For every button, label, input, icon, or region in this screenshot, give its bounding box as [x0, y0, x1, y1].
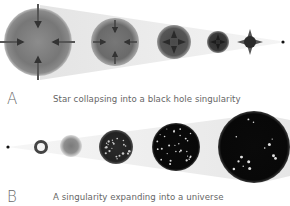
galaxy-spot: [111, 148, 112, 149]
galaxy-spot: [160, 134, 161, 135]
galaxy-spot: [106, 143, 107, 144]
panel-a-stage-medium-star: [91, 18, 139, 66]
panel-b-stage-early-universe: [99, 130, 133, 164]
galaxy-spot: [105, 152, 107, 154]
galaxy-spot: [179, 135, 180, 136]
galaxy-spot: [173, 130, 174, 131]
panel-a-caption: Star collapsing into a black hole singul…: [53, 94, 241, 104]
panel-b-singularity: [6, 145, 9, 148]
galaxy-spot: [188, 158, 190, 160]
galaxy-spot: [164, 136, 166, 138]
panel-b-caption: A singularity expanding into a universe: [53, 192, 224, 202]
galaxy-spot: [108, 150, 110, 152]
panel-b-stage-large-universe: [218, 111, 290, 183]
galaxy-spot: [187, 140, 189, 142]
galaxy-spot: [247, 160, 250, 163]
galaxy-spot: [175, 151, 177, 153]
galaxy-spot: [187, 160, 188, 161]
galaxy-spot: [123, 140, 125, 142]
galaxy-spot: [116, 138, 118, 140]
galaxy-spot: [105, 146, 107, 148]
galaxy-spot: [107, 144, 108, 145]
galaxy-spot: [248, 167, 251, 170]
galaxy-spot: [116, 158, 117, 159]
panel-a-stage-compact-star: [207, 31, 229, 53]
galaxy-spot: [167, 153, 168, 154]
panel-b-stage-universe-galaxies: [152, 123, 200, 171]
galaxy-spot: [264, 147, 266, 149]
panel-a-stage-collapse-point: [237, 29, 263, 55]
galaxy-spot: [268, 143, 271, 146]
galaxy-spot: [190, 133, 192, 135]
galaxy-spot: [236, 136, 238, 138]
galaxy-spot: [156, 141, 158, 143]
galaxy-spot: [233, 168, 236, 171]
galaxy-spot: [170, 160, 172, 162]
galaxy-spot: [272, 154, 275, 157]
galaxy-spot: [186, 151, 187, 152]
galaxy-spot: [247, 118, 249, 120]
galaxy-spot: [108, 140, 110, 142]
galaxy-spot: [112, 142, 114, 144]
galaxy-spot: [123, 144, 125, 146]
panel-a-singularity: [281, 40, 284, 43]
galaxy-spot: [161, 148, 163, 150]
galaxy-spot: [157, 148, 159, 150]
galaxy-spot: [180, 150, 182, 152]
panel-a-stage-smaller-star: [157, 25, 191, 59]
galaxy-spot: [178, 143, 179, 144]
galaxy-spot: [174, 145, 175, 146]
galaxy-spot: [160, 159, 162, 161]
galaxy-spot: [122, 152, 125, 155]
galaxy-spot: [119, 155, 121, 157]
galaxy-spot: [190, 156, 192, 158]
galaxy-spot: [166, 129, 167, 130]
panel-b-stage-hazy-sphere: [60, 135, 82, 157]
galaxy-spot: [128, 150, 131, 153]
galaxy-spot: [168, 144, 170, 146]
galaxy-spot: [253, 121, 255, 123]
galaxy-spot: [272, 138, 273, 139]
galaxy-spot: [237, 160, 239, 162]
panel-a-letter: A: [7, 90, 17, 108]
galaxy-spot: [115, 156, 117, 158]
galaxy-spot: [169, 163, 171, 165]
panel-b-letter: B: [7, 188, 17, 206]
galaxy-spot: [240, 156, 243, 159]
galaxy-spot: [242, 165, 243, 166]
galaxy-spot: [179, 128, 181, 130]
galaxy-spot: [127, 153, 129, 155]
galaxy-spot: [112, 139, 113, 140]
galaxy-spot: [187, 155, 188, 156]
galaxy-spot: [125, 145, 127, 147]
galaxy-spot: [185, 138, 187, 140]
galaxy-spot: [274, 157, 277, 160]
